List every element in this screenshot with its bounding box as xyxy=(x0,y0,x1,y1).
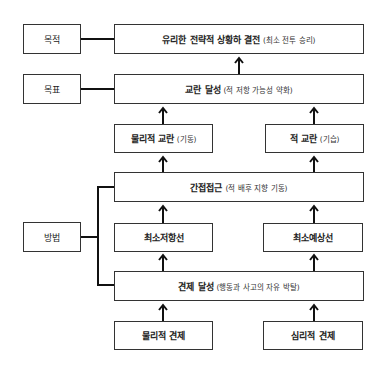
label-purpose: 목적 xyxy=(23,24,81,54)
connector-purpose xyxy=(81,38,114,40)
physical-dislocation-main: 물리적 교란 xyxy=(131,132,174,145)
dislocation-main: 교란 달성 xyxy=(185,83,220,96)
decisive-battle-main: 유리한 전략적 상황하 결전 xyxy=(162,33,259,46)
dislocation-box: 교란 달성 (적 저항 가능성 약화) xyxy=(114,74,364,104)
psychological-distraction-box: 심리적 견제 xyxy=(263,321,363,350)
distraction-sub: (행동과 사고의 자유 박탈) xyxy=(217,281,300,292)
connector-method-to-distraction xyxy=(97,284,114,286)
label-goal-text: 목표 xyxy=(44,83,60,96)
decisive-battle-box: 유리한 전략적 상황하 결전 (최소 전투 승리) xyxy=(114,24,364,54)
label-method: 방법 xyxy=(23,222,81,252)
indirect-approach-sub: (적 배후 지향 기동) xyxy=(225,182,287,193)
least-resistance-main: 최소저항선 xyxy=(144,231,184,244)
least-expectation-main: 최소예상선 xyxy=(293,231,333,244)
enemy-dislocation-main: 적 교란 xyxy=(290,132,317,145)
decisive-battle-sub: (최소 전투 승리) xyxy=(263,34,316,45)
enemy-dislocation-sub: (기습) xyxy=(320,133,340,144)
distraction-box: 견제 달성 (행동과 사고의 자유 박탈) xyxy=(114,271,364,301)
indirect-approach-main: 간접접근 xyxy=(190,181,222,194)
indirect-approach-box: 간접접근 (적 배후 지향 기동) xyxy=(114,172,364,202)
connector-method-vertical xyxy=(97,186,99,286)
distraction-main: 견제 달성 xyxy=(178,280,213,293)
physical-dislocation-box: 물리적 교란 (기동) xyxy=(114,124,213,153)
psychological-distraction-main: 심리적 견제 xyxy=(291,329,334,342)
connector-method xyxy=(81,236,98,238)
label-method-text: 방법 xyxy=(44,231,60,244)
label-purpose-text: 목적 xyxy=(44,33,60,46)
least-resistance-box: 최소저항선 xyxy=(114,223,213,252)
physical-dislocation-sub: (기동) xyxy=(177,133,197,144)
dislocation-sub: (적 저항 가능성 약화) xyxy=(224,84,293,95)
connector-method-to-indirect xyxy=(97,186,114,188)
least-expectation-box: 최소예상선 xyxy=(263,223,363,252)
physical-distraction-box: 물리적 견제 xyxy=(114,321,213,350)
physical-distraction-main: 물리적 견제 xyxy=(142,329,185,342)
enemy-dislocation-box: 적 교란 (기습) xyxy=(265,124,364,153)
connector-goal xyxy=(81,88,114,90)
label-goal: 목표 xyxy=(23,74,81,104)
